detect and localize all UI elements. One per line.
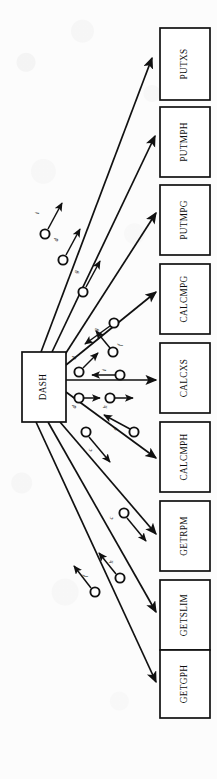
node-getslim-label: GETSLIM (179, 594, 189, 636)
data-couple-g2-label: g (92, 328, 99, 332)
structure-chart: DASH PUTXS PUTMPH PUTMPG CALCMPG (0, 0, 217, 779)
edge-dash-getgph (36, 422, 156, 682)
node-putmph[interactable]: PUTMPH (160, 107, 210, 177)
data-couple-c1-label: c (86, 448, 93, 451)
node-getrpm[interactable]: GETRPM (160, 501, 210, 571)
node-calcmpg-label: CALCMPG (179, 275, 189, 322)
data-couple-f1: f (96, 331, 123, 357)
data-couple-g1-label: g (72, 270, 79, 274)
edge-dash-putmph (52, 136, 155, 352)
node-dash-label: DASH (38, 374, 48, 401)
data-couple-i: i (33, 203, 62, 239)
node-getslim[interactable]: GETSLIM (160, 580, 210, 650)
data-couple-h1-label: h (101, 405, 108, 408)
data-couple-g2: g (85, 318, 119, 344)
node-putxs-label: PUTXS (179, 49, 189, 80)
data-couple-d2: d (70, 353, 98, 377)
node-getrpm-label: GETRPM (179, 516, 189, 556)
node-dash[interactable]: DASH (22, 352, 66, 422)
data-couple-f1-label: f (116, 343, 123, 346)
node-getgph-label: GETGPH (179, 665, 189, 703)
node-calcxs[interactable]: CALCXS (160, 343, 210, 413)
node-calcxs-label: CALCXS (179, 359, 189, 397)
node-getgph[interactable]: GETGPH (160, 650, 210, 718)
data-couple-i2: i (92, 369, 125, 380)
data-couple-d1-label: d (52, 238, 59, 242)
data-couple-c2-label: c (107, 516, 114, 519)
data-couple-d3-label: d (70, 405, 77, 409)
diagram-canvas: DASH PUTXS PUTMPH PUTMPG CALCMPG (0, 0, 217, 779)
data-couple-h2-label: h (107, 560, 114, 563)
data-couple-c1: c (81, 427, 110, 462)
data-couple-i2-label: i (100, 369, 107, 371)
data-couple-h1: h (101, 393, 133, 408)
node-calcmph[interactable]: CALCMPH (160, 422, 210, 492)
edge-dash-getslim (48, 422, 156, 612)
data-couple-f2-label: f (81, 574, 88, 577)
node-calcmpg[interactable]: CALCMPG (160, 264, 210, 334)
node-putmph-label: PUTMPH (179, 122, 189, 162)
node-calcmph-label: CALCMPH (179, 433, 189, 480)
node-putxs[interactable]: PUTXS (160, 28, 210, 100)
data-couple-i-label: i (33, 212, 40, 214)
data-couple-f2: f (74, 566, 100, 597)
node-putmpg-label: PUTMPG (179, 200, 189, 240)
node-putmpg[interactable]: PUTMPG (160, 185, 210, 255)
